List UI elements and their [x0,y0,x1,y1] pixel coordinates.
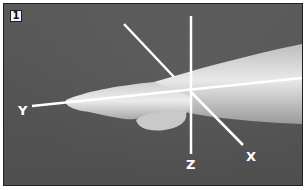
y-axis-label: Y [18,104,27,117]
z-axis-label: Z [186,158,195,171]
figure-frame: 1 Y Z X [3,3,303,186]
figure-number-badge: 1 [10,10,22,22]
forearm-photo [4,4,303,186]
x-axis-label: X [246,150,256,163]
x-axis-line-upper [124,24,174,77]
